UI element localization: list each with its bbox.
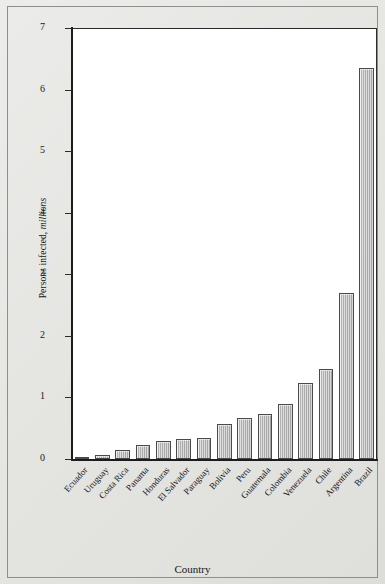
y-axis-title-italic: millions bbox=[38, 198, 48, 229]
y-axis-tick-label: 0 bbox=[21, 453, 45, 463]
bar-chile[interactable] bbox=[319, 369, 334, 460]
bar-uruguay[interactable] bbox=[95, 455, 110, 459]
bar-costa-rica[interactable] bbox=[115, 450, 130, 459]
bar-guatemala[interactable] bbox=[258, 414, 273, 459]
bar-bolivia[interactable] bbox=[217, 424, 232, 459]
y-axis-tick bbox=[65, 336, 72, 337]
bar-paraguay[interactable] bbox=[197, 438, 212, 459]
bar-honduras[interactable] bbox=[156, 441, 171, 459]
y-axis-tick bbox=[65, 274, 72, 275]
y-axis-tick bbox=[65, 213, 72, 214]
y-axis-tick bbox=[65, 459, 72, 460]
y-axis-title: Persons infected, millions bbox=[38, 138, 48, 358]
bar-peru[interactable] bbox=[237, 418, 252, 459]
chart-figure: 01234567 Persons infected, millions Ecua… bbox=[0, 0, 385, 584]
x-axis-line bbox=[71, 459, 378, 461]
bar-panama[interactable] bbox=[136, 445, 151, 459]
y-axis-tick bbox=[65, 90, 72, 91]
y-axis-tick bbox=[65, 28, 72, 29]
bar-series bbox=[72, 28, 377, 459]
figure-frame: 01234567 Persons infected, millions Ecua… bbox=[7, 6, 378, 578]
bar-el-salvador[interactable] bbox=[176, 439, 191, 459]
y-axis-tick-label: 7 bbox=[21, 22, 45, 32]
bar-argentina[interactable] bbox=[339, 293, 354, 459]
y-axis-tick bbox=[65, 397, 72, 398]
bar-colombia[interactable] bbox=[278, 404, 293, 459]
bar-ecuador[interactable] bbox=[75, 457, 90, 459]
y-axis-tick bbox=[65, 151, 72, 152]
y-axis-tick-label: 1 bbox=[21, 391, 45, 401]
y-axis-tick-label: 6 bbox=[21, 84, 45, 94]
y-axis-title-plain: Persons infected, bbox=[38, 232, 48, 299]
x-axis-title: Country bbox=[8, 563, 377, 575]
bar-venezuela[interactable] bbox=[298, 383, 313, 459]
bar-brazil[interactable] bbox=[359, 68, 374, 459]
